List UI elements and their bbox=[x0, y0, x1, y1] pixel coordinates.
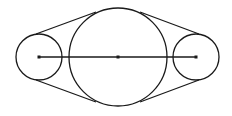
center-point-marker bbox=[38, 56, 41, 59]
bottom-right-belt-line bbox=[140, 80, 199, 102]
belt-pulley-diagram bbox=[0, 0, 232, 116]
top-right-belt-line bbox=[140, 12, 199, 34]
center-point-marker bbox=[117, 56, 120, 59]
diagram-canvas bbox=[0, 0, 232, 116]
bottom-left-belt-line bbox=[36, 80, 96, 102]
center-point-marker bbox=[195, 56, 198, 59]
top-left-belt-line bbox=[36, 12, 96, 34]
